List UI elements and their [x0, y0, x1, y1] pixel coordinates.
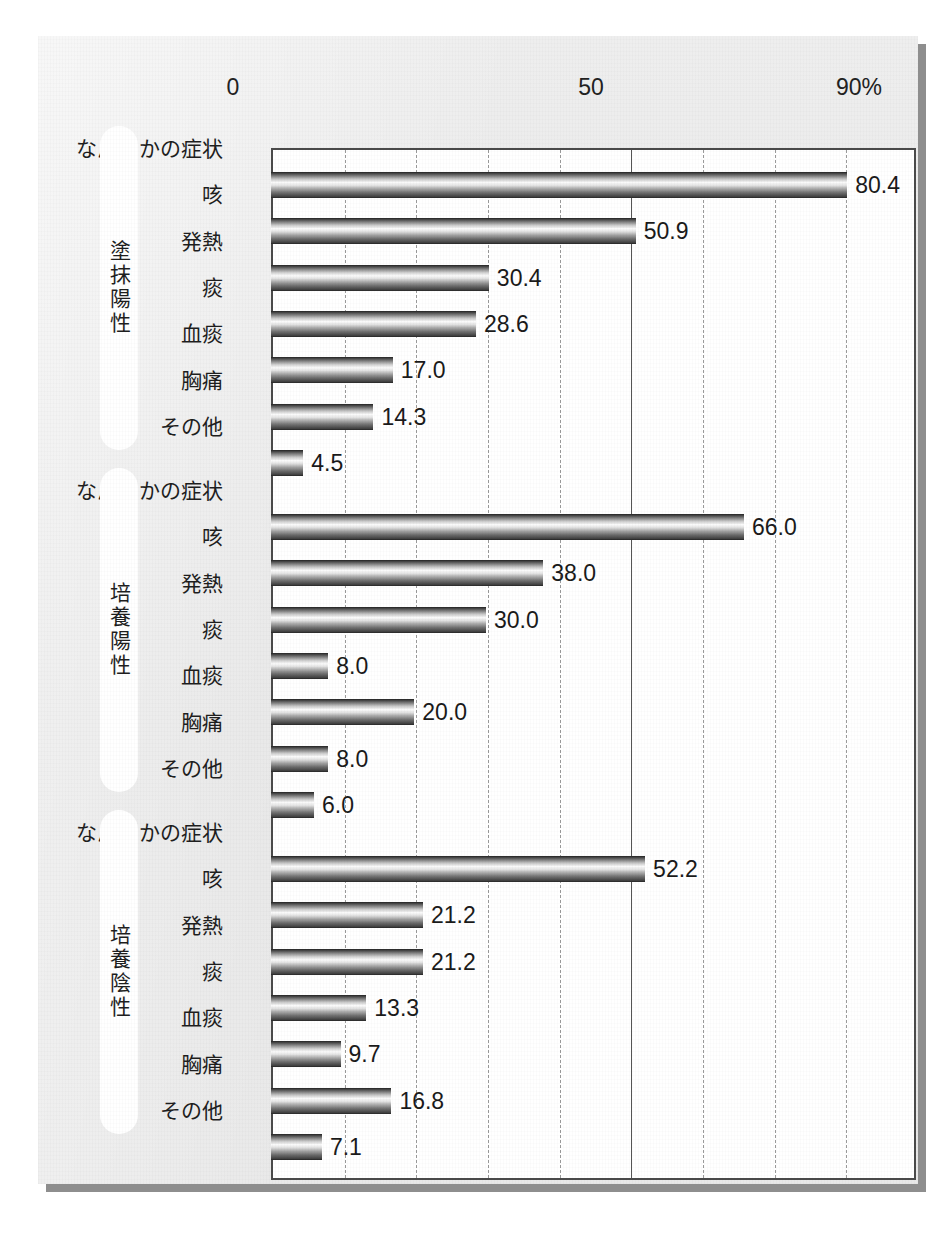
- category-label: その他: [160, 1101, 223, 1122]
- screenshot-root: 05090% 80.450.930.428.617.014.34.566.038…: [0, 0, 934, 1244]
- group-label: 塗抹陽性: [104, 240, 134, 336]
- category-label: 血痰: [181, 666, 223, 687]
- category-label: 痰: [202, 620, 223, 641]
- category-label: その他: [160, 759, 223, 780]
- group-pill-3: 培養陰性: [100, 810, 138, 1134]
- group-pill-2: 培養陽性: [100, 468, 138, 792]
- chart-panel: 05090% 80.450.930.428.617.014.34.566.038…: [38, 36, 918, 1184]
- category-label: その他: [160, 417, 223, 438]
- category-label: 咳: [202, 869, 223, 890]
- category-label: 痰: [202, 962, 223, 983]
- x-axis-tick-0: 0: [227, 76, 240, 99]
- category-label: 発熱: [181, 232, 223, 253]
- group-label: 培養陰性: [104, 924, 134, 1020]
- plot-area: [271, 148, 916, 1180]
- category-label: 発熱: [181, 916, 223, 937]
- group-pill-1: 塗抹陽性: [100, 126, 138, 450]
- category-label: 痰: [202, 278, 223, 299]
- category-label: 胸痛: [181, 1055, 223, 1076]
- category-label: 咳: [202, 527, 223, 548]
- category-label: なんらかの症状: [76, 139, 223, 160]
- gridline-50: [631, 150, 632, 1178]
- gridline-40: [560, 150, 561, 1178]
- gridline-20: [416, 150, 417, 1178]
- category-label: 胸痛: [181, 713, 223, 734]
- group-label: 培養陽性: [104, 582, 134, 678]
- category-label: 咳: [202, 185, 223, 206]
- category-label: 血痰: [181, 1008, 223, 1029]
- category-label: なんらかの症状: [76, 823, 223, 844]
- category-label: 血痰: [181, 324, 223, 345]
- category-label: なんらかの症状: [76, 481, 223, 502]
- x-axis-tick-50: 50: [578, 76, 604, 99]
- category-label: 発熱: [181, 574, 223, 595]
- gridline-10: [345, 150, 346, 1178]
- x-axis-tick-90: 90%: [836, 76, 882, 99]
- gridline-30: [488, 150, 489, 1178]
- gridline-60: [703, 150, 704, 1178]
- gridline-70: [775, 150, 776, 1178]
- gridline-80: [846, 150, 847, 1178]
- category-label: 胸痛: [181, 371, 223, 392]
